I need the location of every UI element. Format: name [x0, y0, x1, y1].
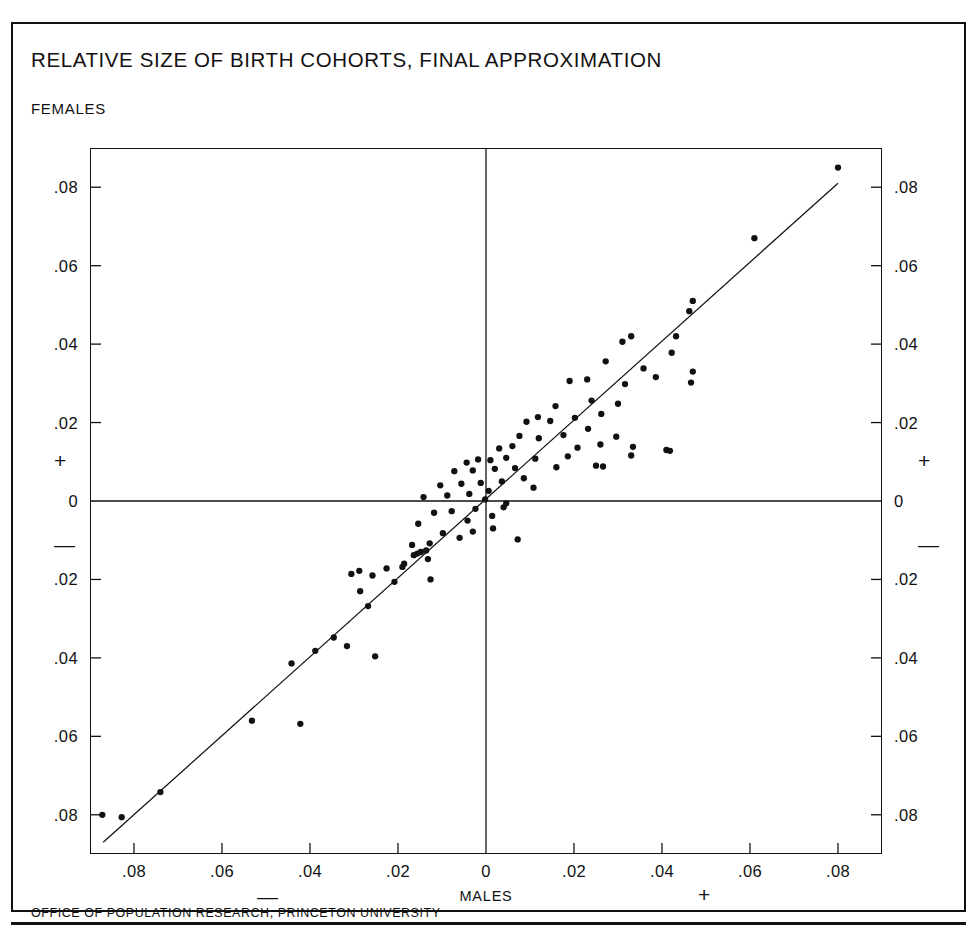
y-axis-negative-sign-left: — — [54, 534, 75, 555]
footer-divider — [11, 922, 966, 925]
x-tick-label: .06 — [210, 862, 234, 881]
scatter-point — [449, 508, 455, 514]
identity-reference-line — [103, 183, 838, 842]
scatter-point — [523, 419, 529, 425]
scatter-point — [437, 482, 443, 488]
scatter-point — [630, 444, 636, 450]
scatter-point — [496, 445, 502, 451]
y-axis-positive-sign-left: + — [54, 450, 66, 471]
scatter-point — [357, 588, 363, 594]
x-axis-positive-sign: + — [698, 884, 710, 905]
scatter-point — [475, 456, 481, 462]
scatter-point — [503, 455, 509, 461]
scatter-point — [690, 298, 696, 304]
scatter-point — [331, 634, 337, 640]
scatter-point — [588, 397, 594, 403]
x-tick-label: .04 — [298, 862, 322, 881]
scatter-point — [492, 466, 498, 472]
scatter-point — [530, 485, 536, 491]
scatter-point — [615, 401, 621, 407]
scatter-point — [490, 525, 496, 531]
y-tick-label-left: .02 — [54, 413, 78, 432]
scatter-point — [427, 540, 433, 546]
y-tick-label-right: .08 — [894, 178, 918, 197]
scatter-point — [667, 448, 673, 454]
scatter-point — [99, 812, 105, 818]
scatter-point — [372, 653, 378, 659]
scatter-point — [157, 789, 163, 795]
scatter-point — [119, 814, 125, 820]
scatter-point — [613, 434, 619, 440]
scatter-point — [560, 432, 566, 438]
scatter-point — [536, 435, 542, 441]
scatter-point — [470, 467, 476, 473]
scatter-point — [487, 457, 493, 463]
scatter-point — [628, 452, 634, 458]
scatter-point — [669, 350, 675, 356]
y-tick-label-left: .04 — [54, 648, 78, 667]
scatter-point — [690, 368, 696, 374]
scatter-point — [751, 235, 757, 241]
scatter-point — [500, 504, 506, 510]
scatter-point — [411, 552, 417, 558]
scatter-point — [485, 488, 491, 494]
x-tick-label: 0 — [481, 862, 491, 881]
scatter-point — [348, 571, 354, 577]
scatter-point — [619, 339, 625, 345]
scatter-point — [464, 517, 470, 523]
scatter-point — [516, 433, 522, 439]
x-axis-name: MALES — [459, 888, 512, 904]
scatter-point — [466, 491, 472, 497]
scatter-point — [365, 603, 371, 609]
page-title: RELATIVE SIZE OF BIRTH COHORTS, FINAL AP… — [31, 48, 662, 72]
scatter-point — [451, 468, 457, 474]
scatter-point — [509, 443, 515, 449]
scatter-point — [312, 648, 318, 654]
scatter-point — [553, 464, 559, 470]
scatter-point — [512, 465, 518, 471]
y-tick-label-right: .06 — [894, 727, 918, 746]
figure-root: RELATIVE SIZE OF BIRTH COHORTS, FINAL AP… — [0, 0, 979, 946]
scatter-point — [521, 475, 527, 481]
scatter-point — [598, 411, 604, 417]
x-tick-label: .04 — [650, 862, 674, 881]
scatter-point — [584, 376, 590, 382]
scatter-point — [597, 441, 603, 447]
scatter-point — [622, 381, 628, 387]
y-tick-label-left: .08 — [54, 178, 78, 197]
scatter-point — [415, 521, 421, 527]
y-tick-label-right: .04 — [894, 648, 918, 667]
scatter-point — [640, 365, 646, 371]
scatter-point — [344, 643, 350, 649]
scatter-point — [600, 463, 606, 469]
y-axis-negative-sign-right: — — [918, 534, 939, 555]
scatter-point — [532, 455, 538, 461]
y-tick-label-left: 0 — [68, 492, 78, 511]
x-axis-negative-sign: — — [257, 886, 278, 907]
scatter-point — [288, 660, 294, 666]
scatter-point — [489, 513, 495, 519]
scatter-plot-canvas — [90, 148, 882, 854]
scatter-point — [603, 358, 609, 364]
scatter-point — [552, 403, 558, 409]
scatter-point — [427, 576, 433, 582]
scatter-point — [444, 492, 450, 498]
scatter-point — [565, 453, 571, 459]
scatter-point — [383, 565, 389, 571]
scatter-point — [369, 572, 375, 578]
y-tick-label-left: .08 — [54, 805, 78, 824]
scatter-point — [249, 717, 255, 723]
y-tick-label-left: .06 — [54, 727, 78, 746]
y-tick-label-right: 0 — [894, 492, 904, 511]
y-tick-label-right: .02 — [894, 570, 918, 589]
scatter-point — [482, 496, 488, 502]
x-tick-label: .08 — [826, 862, 850, 881]
scatter-point — [686, 308, 692, 314]
scatter-point-group — [99, 164, 841, 820]
scatter-point — [458, 481, 464, 487]
scatter-point — [535, 414, 541, 420]
y-axis-positive-sign-right: + — [918, 450, 930, 471]
scatter-point — [499, 478, 505, 484]
scatter-point — [431, 510, 437, 516]
scatter-point — [585, 426, 591, 432]
